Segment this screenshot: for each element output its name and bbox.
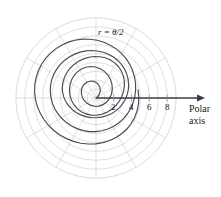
archimedean-spiral-path	[35, 39, 139, 144]
tick-label-6: 6	[147, 103, 152, 112]
tick-label-2: 2	[111, 103, 116, 112]
equation-label: r = θ/2	[98, 28, 124, 37]
spiral-curve	[35, 39, 139, 144]
tick-label-8: 8	[165, 103, 170, 112]
polar-axis-ray	[96, 94, 205, 101]
polar-axis-label-line2: axis	[189, 116, 205, 126]
polar-axis-label-line1: Polar	[189, 104, 210, 114]
polar-axis-arrowhead	[197, 94, 205, 101]
tick-label-4: 4	[129, 103, 134, 112]
